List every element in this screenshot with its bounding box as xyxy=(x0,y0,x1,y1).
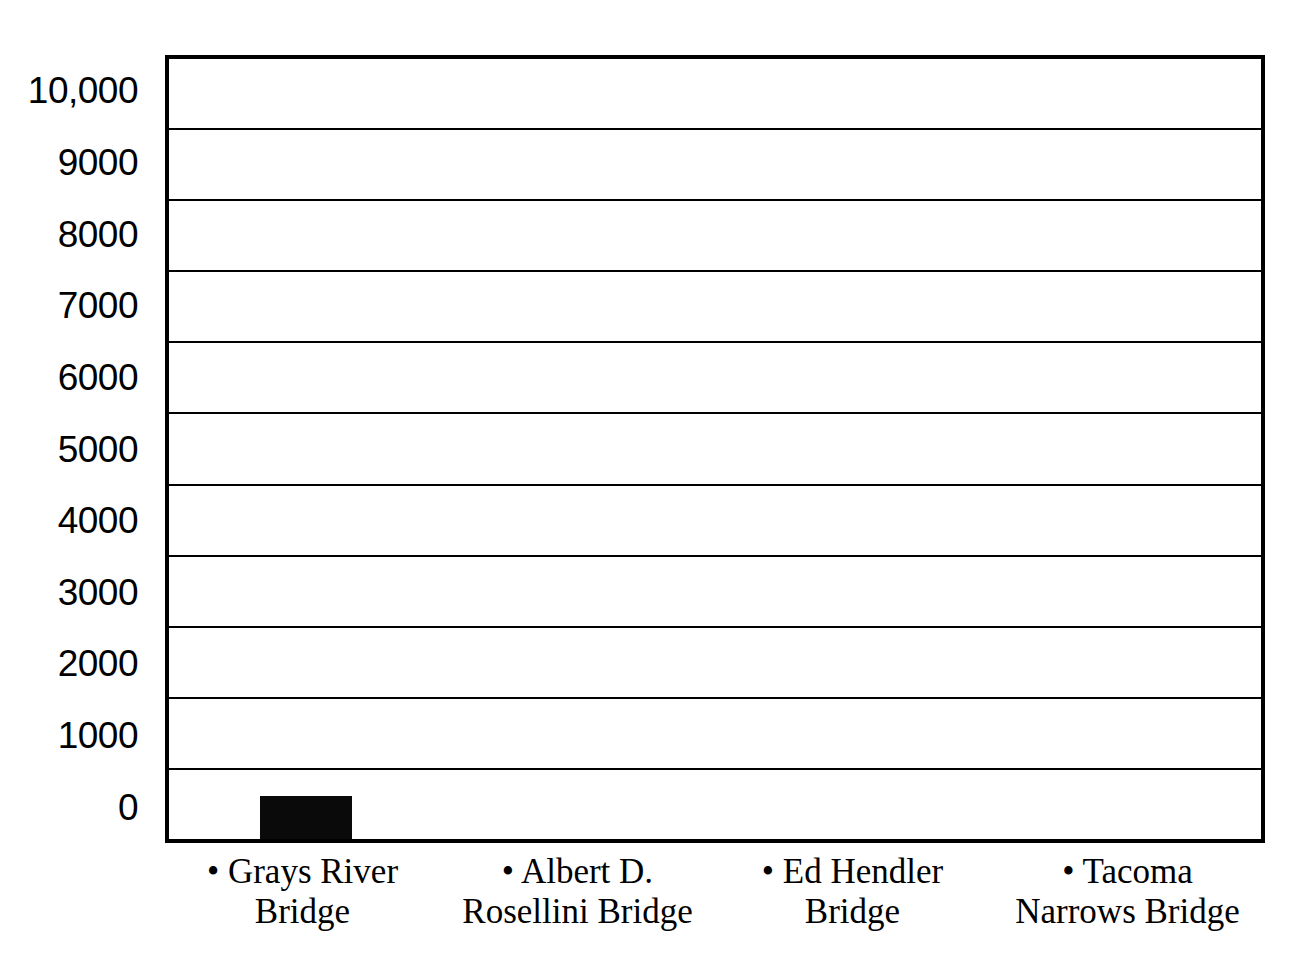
bar-slot xyxy=(169,59,442,839)
x-axis-category-labels: • Grays River Bridge • Albert D. Roselli… xyxy=(165,852,1265,962)
x-axis-category-label: • Ed Hendler Bridge xyxy=(715,852,990,962)
x-axis-category-label: • Tacoma Narrows Bridge xyxy=(990,852,1265,962)
x-axis-category-label: • Albert D. Rosellini Bridge xyxy=(440,852,715,962)
y-axis-tick-label: 5000 xyxy=(0,413,138,485)
y-axis-tick-label: 4000 xyxy=(0,485,138,557)
plot-inner xyxy=(169,59,1261,839)
bar-slot xyxy=(988,59,1261,839)
y-axis-tick-label: 8000 xyxy=(0,198,138,270)
bar[interactable] xyxy=(260,796,352,839)
y-axis-tick-label: 6000 xyxy=(0,342,138,414)
y-axis-tick-label: 9000 xyxy=(0,127,138,199)
y-axis-tick-label: 1000 xyxy=(0,700,138,772)
x-axis-category-line1: • Albert D. xyxy=(444,852,711,892)
bar-chart: 10,000 9000 8000 7000 6000 5000 4000 300… xyxy=(0,0,1309,976)
bars-layer xyxy=(169,59,1261,839)
x-axis-category-line1: • Grays River xyxy=(169,852,436,892)
x-axis-category-line2: Narrows Bridge xyxy=(994,892,1261,932)
y-axis-tick-label: 10,000 xyxy=(0,55,138,127)
y-axis-tick-label: 0 xyxy=(0,771,138,843)
bar-slot xyxy=(442,59,715,839)
x-axis-category-line1: • Tacoma xyxy=(994,852,1261,892)
y-axis-tick-labels: 10,000 9000 8000 7000 6000 5000 4000 300… xyxy=(0,55,138,843)
x-axis-category-label: • Grays River Bridge xyxy=(165,852,440,962)
x-axis-category-line1: • Ed Hendler xyxy=(719,852,986,892)
y-axis-tick-label: 2000 xyxy=(0,628,138,700)
bar-slot xyxy=(715,59,988,839)
y-axis-tick-label: 7000 xyxy=(0,270,138,342)
y-axis-tick-label: 3000 xyxy=(0,556,138,628)
x-axis-category-line2: Bridge xyxy=(169,892,436,932)
plot-area xyxy=(165,55,1265,843)
x-axis-category-line2: Rosellini Bridge xyxy=(444,892,711,932)
x-axis-category-line2: Bridge xyxy=(719,892,986,932)
